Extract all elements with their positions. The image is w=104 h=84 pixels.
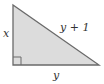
triangle-diagram: x y + 1 y bbox=[0, 0, 104, 84]
label-horizontal-leg: y bbox=[52, 69, 60, 82]
label-hypotenuse: y + 1 bbox=[59, 21, 89, 34]
label-vertical-leg: x bbox=[3, 27, 10, 40]
right-triangle bbox=[13, 5, 99, 65]
